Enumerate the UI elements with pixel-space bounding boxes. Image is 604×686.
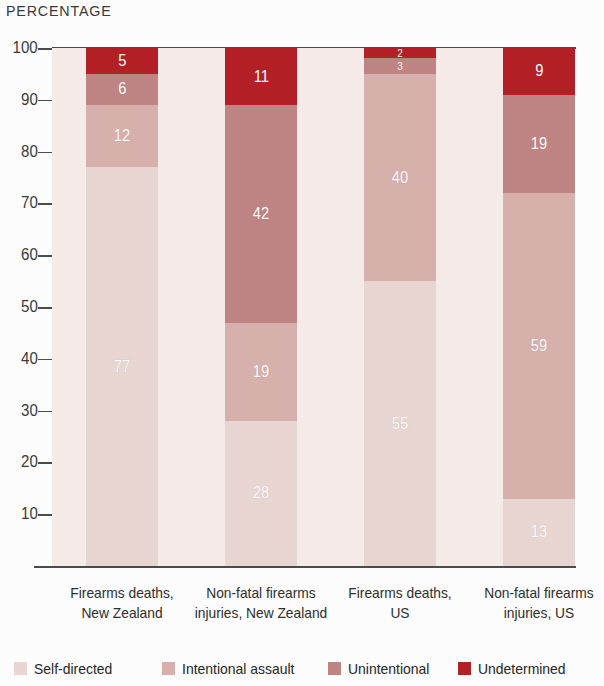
y-axis-tick-label: 80 (21, 143, 38, 161)
y-axis-tick-label: 30 (21, 402, 38, 420)
bar-segment-value: 13 (531, 524, 547, 540)
bar-segment: 9 (503, 48, 575, 95)
bar-segment: 6 (86, 74, 158, 105)
y-axis-tick-label: 10 (21, 505, 38, 523)
bar-segment-value: 12 (114, 128, 130, 144)
y-axis-tick (38, 203, 52, 205)
y-axis-tick-label: 40 (21, 350, 38, 368)
legend-swatch (14, 662, 27, 675)
legend-swatch (458, 662, 471, 675)
chart-title: PERCENTAGE (6, 2, 111, 20)
legend-item[interactable]: Unintentional (328, 660, 436, 677)
y-axis-tick-label: 70 (21, 194, 38, 212)
bar-segment: 11 (225, 48, 297, 105)
plot-area: 771265281942115540321359199 (52, 48, 574, 566)
bar-segment: 3 (364, 58, 436, 74)
y-axis-tick-label: 50 (21, 298, 38, 316)
category-label-line: injuries, New Zealand (190, 604, 333, 624)
category-label-line: US (329, 604, 472, 624)
bar-segment-value: 3 (397, 61, 403, 72)
stacked-bar: 1359199 (503, 48, 575, 566)
legend-swatch (162, 662, 175, 675)
bar-segment: 13 (503, 499, 575, 566)
bar-segment-value: 59 (531, 338, 547, 354)
category-label-line: Firearms deaths, (329, 584, 472, 604)
bar-segment-value: 28 (253, 485, 269, 501)
legend-label: Intentional assault (182, 660, 294, 677)
bar-segment: 19 (225, 323, 297, 421)
y-axis-tick (38, 359, 52, 361)
y-axis-tick-label: 100 (13, 39, 38, 57)
bar-segment: 12 (86, 105, 158, 167)
stacked-bar: 28194211 (225, 48, 297, 566)
bar-segment-value: 5 (118, 53, 126, 69)
legend-item[interactable]: Self-directed (14, 660, 118, 677)
bar-segment-value: 55 (392, 416, 408, 432)
y-axis-tick (38, 152, 52, 154)
category-label-line: injuries, US (468, 604, 604, 624)
y-axis-tick (38, 514, 52, 516)
bar-segment: 77 (86, 167, 158, 566)
y-axis-tick (38, 255, 52, 257)
bar-segment-value: 11 (253, 69, 268, 85)
bar-segment: 55 (364, 281, 436, 566)
legend-label: Unintentional (348, 660, 429, 677)
legend-label: Self-directed (34, 660, 112, 677)
bar-segment-value: 40 (392, 170, 408, 186)
legend-item[interactable]: Undetermined (458, 660, 572, 677)
category-label-line: New Zealand (51, 604, 194, 624)
bar-segment-value: 19 (253, 364, 269, 380)
legend-item[interactable]: Intentional assault (162, 660, 303, 677)
stacked-bar: 771265 (86, 48, 158, 566)
bar-segment: 40 (364, 74, 436, 281)
bar-segment-value: 2 (397, 48, 403, 59)
bar-segment: 2 (364, 48, 436, 58)
bar-segment: 42 (225, 105, 297, 323)
bar-segment: 28 (225, 421, 297, 566)
bar-segment-value: 19 (531, 136, 547, 152)
bar-segment-value: 42 (253, 206, 269, 222)
y-axis-tick (38, 462, 52, 464)
bar-segment-value: 9 (535, 63, 543, 79)
category-label-line: Non-fatal firearms (468, 584, 604, 604)
stacked-bar: 554032 (364, 48, 436, 566)
category-label: Firearms deaths,New Zealand (51, 584, 194, 623)
category-label: Non-fatal firearmsinjuries, US (468, 584, 604, 623)
y-axis-tick (38, 100, 52, 102)
y-axis-tick (38, 411, 52, 413)
legend: Self-directedIntentional assaultUnintent… (6, 656, 598, 680)
axis-bottom-line (34, 566, 576, 568)
category-label-line: Non-fatal firearms (190, 584, 333, 604)
chart-root: PERCENTAGE 102030405060708090100 7712652… (0, 0, 604, 686)
category-label: Non-fatal firearmsinjuries, New Zealand (190, 584, 333, 623)
bar-segment: 5 (86, 48, 158, 74)
y-axis-tick (38, 307, 52, 309)
bar-segment-value: 77 (114, 359, 130, 375)
y-axis-tick (38, 48, 52, 50)
category-label-line: Firearms deaths, (51, 584, 194, 604)
y-axis-tick-label: 20 (21, 453, 38, 471)
y-axis-tick-label: 90 (21, 91, 38, 109)
y-axis-tick-label: 60 (21, 246, 38, 264)
bar-segment-value: 6 (118, 81, 126, 97)
bar-segment: 19 (503, 95, 575, 193)
legend-swatch (328, 662, 341, 675)
category-label: Firearms deaths,US (329, 584, 472, 623)
bar-segment: 59 (503, 193, 575, 499)
legend-label: Undetermined (478, 660, 566, 677)
